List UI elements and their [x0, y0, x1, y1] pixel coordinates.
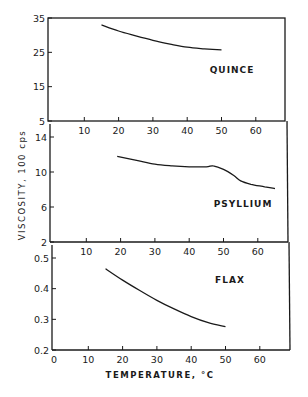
panel-psyllium — [50, 121, 288, 242]
x-tick-label: 10 — [82, 354, 94, 365]
x-tick-label: 40 — [181, 125, 193, 136]
y-tick-label: 0.3 — [34, 314, 49, 325]
y-axis-label: VISCOSITY, 100 cps — [17, 130, 27, 240]
y-tick-label: 0.2 — [34, 345, 49, 356]
x-tick-label: 50 — [219, 354, 231, 365]
x-tick-label: 20 — [115, 246, 127, 257]
x-tick-label: 60 — [252, 246, 264, 257]
viscosity-figure: 51525351020304050602610141020304050600.2… — [0, 0, 308, 397]
curve-quince — [102, 25, 222, 50]
x-tick-label: 0 — [51, 354, 57, 365]
x-tick-label: 10 — [80, 246, 92, 257]
x-tick-label: 40 — [185, 354, 197, 365]
x-tick-label: 50 — [215, 125, 227, 136]
curve-psyllium — [117, 156, 275, 188]
y-tick-label: 15 — [33, 81, 45, 92]
x-tick-label: 60 — [250, 125, 262, 136]
panel-label-flax: FLAX — [215, 275, 245, 285]
y-tick-label: 2 — [41, 237, 47, 248]
x-tick-label: 60 — [254, 354, 266, 365]
y-tick-label: 5 — [39, 116, 45, 127]
panel-flax — [52, 242, 290, 350]
y-tick-label: 10 — [35, 167, 47, 178]
x-tick-label: 30 — [147, 125, 159, 136]
y-tick-label: 0.4 — [34, 283, 49, 294]
x-axis-label: TEMPERATURE, °C — [106, 370, 215, 380]
y-tick-label: 25 — [33, 47, 45, 58]
x-tick-label: 20 — [117, 354, 129, 365]
x-tick-label: 30 — [151, 354, 163, 365]
x-tick-label: 40 — [183, 246, 195, 257]
x-tick-label: 30 — [149, 246, 161, 257]
y-tick-label: 14 — [35, 132, 47, 143]
x-tick-label: 50 — [217, 246, 229, 257]
panel-label-psyllium: PSYLLIUM — [214, 199, 273, 209]
x-tick-label: 20 — [113, 125, 125, 136]
panel-label-quince: QUINCE — [210, 65, 255, 75]
curve-flax — [106, 269, 226, 327]
y-tick-label: 0.5 — [34, 253, 49, 264]
y-tick-label: 35 — [33, 13, 45, 24]
y-tick-label: 6 — [41, 202, 47, 213]
x-tick-label: 10 — [78, 125, 90, 136]
